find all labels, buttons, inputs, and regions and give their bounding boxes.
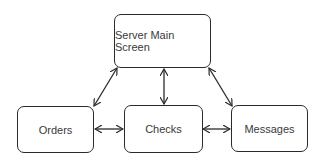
node-orders: Orders — [17, 106, 94, 153]
node-label: Messages — [244, 123, 294, 135]
node-checks: Checks — [124, 105, 203, 153]
node-label: Checks — [145, 123, 182, 135]
node-messages: Messages — [231, 105, 308, 152]
node-server-main-screen: Server Main Screen — [114, 14, 211, 68]
edge-server-orders — [94, 68, 117, 106]
node-label: Server Main Screen — [115, 29, 210, 53]
edge-server-messages — [209, 68, 232, 106]
node-label: Orders — [39, 124, 73, 136]
